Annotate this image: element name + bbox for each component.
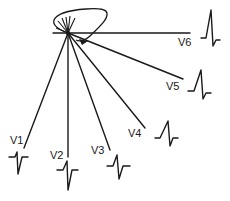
ecg-lead-diagram: V6 V5 V4 V3 V2 V1 [0,0,230,201]
lead-label-v2: V2 [50,149,63,161]
lead-axis-v2: V2 [50,33,78,190]
qrs-complex-v3 [107,155,130,179]
qrs-complex-v6 [201,10,220,46]
lead-label-v6: V6 [178,36,191,48]
vector-loop [54,9,107,45]
qrs-complex-v5 [188,70,211,99]
lead-label-v4: V4 [128,127,141,139]
loop-spokes [56,16,75,33]
lead-label-v1: V1 [10,134,23,146]
qrs-complex-v2 [57,161,78,190]
lead-axis-v6: V6 [53,10,220,48]
lead-label-v5: V5 [166,80,179,92]
qrs-complex-v4 [155,121,178,146]
lead-axis-v3: V3 [68,33,130,179]
lead-axis-v4: V4 [68,33,178,146]
lead-label-v3: V3 [91,144,104,156]
qrs-complex-v1 [9,152,28,174]
